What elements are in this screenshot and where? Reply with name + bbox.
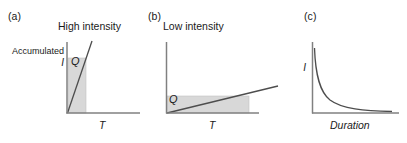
panel-c: (c) I Duration	[272, 0, 407, 143]
panel-c-xlabel: Duration	[330, 119, 370, 131]
panel-b: (b) Low intensity Q T	[138, 0, 278, 143]
panel-a-plot	[0, 0, 140, 143]
panel-a-region-label: Q	[71, 55, 80, 67]
panel-b-plot	[138, 0, 278, 143]
panel-a-xlabel: T	[99, 119, 105, 131]
panel-b-region-label: Q	[169, 93, 178, 105]
panel-b-xlabel: T	[209, 119, 215, 131]
figure-panels: (a) High intensity Accumulated I Q T (b)…	[0, 0, 407, 143]
panel-a: (a) High intensity Accumulated I Q T	[0, 0, 140, 143]
panel-c-data-curve	[315, 48, 393, 112]
